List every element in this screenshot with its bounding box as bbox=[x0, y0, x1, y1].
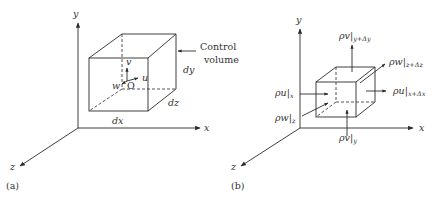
u-label: u bbox=[142, 72, 148, 83]
flux-label-rho-u-x: ρu|x bbox=[274, 87, 294, 100]
velocity-triad: v u w O bbox=[112, 56, 148, 91]
control-volume-callout: Control volume bbox=[178, 41, 239, 65]
panel-b: y x z ρu|x bbox=[230, 14, 426, 191]
flux-label-rho-w-zdz: ρw|z+Δz bbox=[388, 56, 423, 69]
y-axis-label: y bbox=[72, 8, 79, 19]
x-axis-label: x bbox=[204, 122, 210, 133]
control-volume-cube-a bbox=[89, 34, 176, 111]
y-axis-label: y bbox=[295, 14, 302, 25]
flux-label-rho-v-ydy: ρv|y+Δy bbox=[338, 30, 371, 43]
x-axis-label: x bbox=[419, 122, 425, 133]
z-axis-arrow bbox=[241, 128, 300, 166]
w-label: w bbox=[112, 80, 120, 91]
dz-label: dz bbox=[168, 97, 180, 108]
flux-w-in-arrow bbox=[302, 103, 328, 116]
dx-label: dx bbox=[112, 115, 124, 126]
flux-arrows bbox=[300, 45, 386, 136]
callout-line1: Control bbox=[200, 41, 236, 52]
panel-a-label: (a) bbox=[6, 180, 19, 191]
z-axis-arrow bbox=[20, 128, 78, 166]
control-volume-diagram: y x z v u w O dx dy bbox=[0, 0, 437, 204]
origin-label: O bbox=[127, 80, 135, 91]
control-volume-cube-b bbox=[316, 67, 375, 117]
flux-label-rho-u-xdx: ρu|x+Δx bbox=[392, 85, 426, 98]
v-label: v bbox=[126, 56, 132, 67]
z-axis-label: z bbox=[9, 161, 16, 172]
axes-a: y x z bbox=[9, 8, 210, 172]
flux-label-rho-w-z: ρw|z bbox=[274, 112, 296, 125]
z-axis-label: z bbox=[230, 161, 237, 172]
dy-label: dy bbox=[183, 64, 195, 75]
callout-line2: volume bbox=[203, 54, 239, 65]
panel-b-label: (b) bbox=[231, 180, 245, 191]
flux-label-rho-v-y: ρv|y bbox=[338, 132, 357, 145]
panel-a: y x z v u w O dx dy bbox=[6, 8, 239, 191]
